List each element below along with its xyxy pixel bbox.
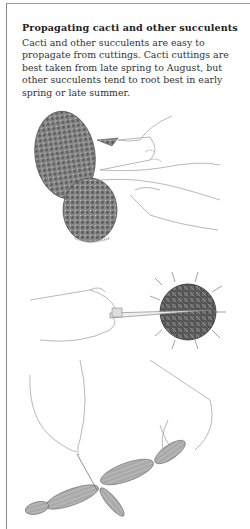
globular-cactus-illustration [30,272,226,349]
opuntia-illustration [29,107,220,242]
illustration-opuntia-cutting [0,0,250,529]
jointed-stem-illustration [24,360,212,519]
